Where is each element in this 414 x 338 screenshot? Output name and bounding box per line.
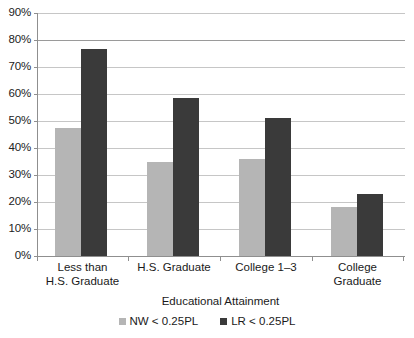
x-tick-label-college-1-3: College 1–3	[220, 261, 312, 275]
legend-swatch-icon	[119, 318, 126, 325]
x-axis-title: Educational Attainment	[37, 294, 404, 308]
bar-nw-less-than-hs	[55, 128, 81, 256]
y-tick-label: 90%	[0, 7, 31, 19]
y-tick-label: 10%	[0, 223, 31, 235]
y-tick-label: 20%	[0, 196, 31, 208]
bar-lr-college-1-3	[265, 118, 291, 256]
bar-nw-college-1-3	[239, 159, 265, 256]
legend-label-lr: LR < 0.25PL	[231, 315, 295, 328]
y-tick-label: 0%	[0, 250, 31, 262]
bar-lr-less-than-hs	[81, 49, 107, 256]
legend-item-nw: NW < 0.25PL	[119, 315, 199, 328]
y-tick-label: 40%	[0, 142, 31, 154]
legend-item-lr: LR < 0.25PL	[220, 315, 295, 328]
bars-layer	[37, 13, 404, 256]
bar-nw-hs-graduate	[147, 162, 173, 257]
y-tick-label: 80%	[0, 34, 31, 46]
bar-nw-college-graduate	[331, 207, 357, 256]
y-tick-label: 50%	[0, 115, 31, 127]
legend-swatch-icon	[220, 318, 227, 325]
bar-lr-college-graduate	[357, 194, 383, 256]
x-tick-label-college-graduate: College Graduate	[312, 261, 403, 288]
y-tick-label: 60%	[0, 88, 31, 100]
x-tick-label-less-than-hs: Less than H.S. Graduate	[37, 261, 128, 288]
x-tick-label-hs-graduate: H.S. Graduate	[128, 261, 220, 275]
y-tick-label: 70%	[0, 61, 31, 73]
x-axis-labels: Less than H.S. Graduate H.S. Graduate Co…	[37, 261, 404, 295]
y-tick-label: 30%	[0, 169, 31, 181]
bar-lr-hs-graduate	[173, 98, 199, 256]
chart-legend: NW < 0.25PL LR < 0.25PL	[0, 315, 414, 328]
legend-label-nw: NW < 0.25PL	[130, 315, 199, 328]
bar-chart: 90% 80% 70% 60% 50% 40% 30% 20% 10% 0%	[0, 0, 414, 338]
